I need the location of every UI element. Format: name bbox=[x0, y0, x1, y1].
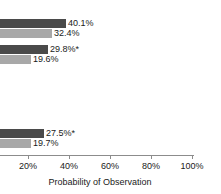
bar-group-2: 29.8%* 19.6% bbox=[0, 45, 221, 64]
bar-value-label: 32.4% bbox=[54, 27, 80, 39]
bar-value-label: 19.6% bbox=[33, 53, 59, 65]
bar-row: 19.7% bbox=[0, 139, 221, 148]
x-axis-tick bbox=[28, 155, 29, 159]
bar-row: 19.6% bbox=[0, 55, 221, 64]
x-axis-tick bbox=[110, 155, 111, 159]
x-axis-title: Probability of Observation bbox=[0, 176, 200, 188]
x-axis-tick-label: 40% bbox=[60, 160, 78, 172]
bar-group-3: 27.5%* 19.7% bbox=[0, 129, 221, 148]
plot-area: 40.1% 32.4% 29.8%* 19.6% 27.5%* bbox=[0, 0, 221, 156]
bar-light bbox=[0, 55, 31, 64]
bar-value-label: 19.7% bbox=[33, 137, 59, 149]
x-axis-line bbox=[0, 155, 194, 156]
x-axis-tick bbox=[69, 155, 70, 159]
x-axis-tick-label: 20% bbox=[19, 160, 37, 172]
bar-row: 40.1% bbox=[0, 19, 221, 28]
x-axis-tick-label: 80% bbox=[142, 160, 160, 172]
bar-light bbox=[0, 29, 52, 38]
bar-light bbox=[0, 139, 31, 148]
bar-group-1: 40.1% 32.4% bbox=[0, 19, 221, 38]
bar-row: 32.4% bbox=[0, 29, 221, 38]
x-axis-tick-label: 60% bbox=[101, 160, 119, 172]
x-axis-tick-label: 100% bbox=[180, 160, 203, 172]
x-axis-tick bbox=[151, 155, 152, 159]
x-axis-tick bbox=[192, 155, 193, 159]
bar-chart: 40.1% 32.4% 29.8%* 19.6% 27.5%* bbox=[0, 0, 221, 194]
